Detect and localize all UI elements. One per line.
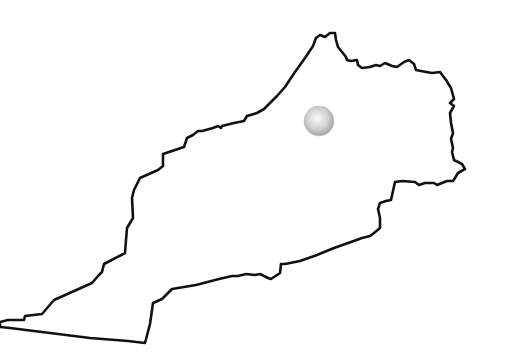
country-outline (0, 33, 465, 343)
location-marker-sphere[interactable] (304, 106, 334, 136)
map-canvas (0, 0, 517, 360)
map-container: Country outline map (0, 0, 517, 360)
